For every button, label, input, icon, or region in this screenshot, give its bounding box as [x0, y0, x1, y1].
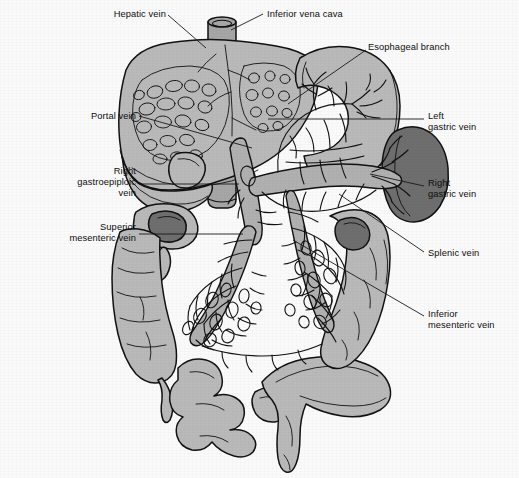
- sigmoid-colon-organ: [262, 357, 391, 472]
- label-inferior-mesenteric-vein: Inferiormesenteric vein: [428, 309, 518, 331]
- label-line: gastric vein: [428, 189, 514, 200]
- label-line: Right: [40, 166, 136, 177]
- label-inferior-vena-cava: Inferior vena cava: [267, 9, 387, 20]
- label-splenic-vein: Splenic vein: [428, 248, 514, 259]
- label-hepatic-vein: Hepatic vein: [84, 9, 166, 20]
- label-line: Esophageal branch: [368, 42, 488, 53]
- label-line: mesenteric vein: [26, 233, 136, 244]
- label-right-gastric-vein: Rightgastric vein: [428, 178, 514, 200]
- label-line: Left: [428, 111, 514, 122]
- label-line: Inferior vena cava: [267, 9, 387, 20]
- anatomical-figure: .o { stroke:#111; stroke-width:1.5; stro…: [0, 0, 519, 478]
- label-line: Splenic vein: [428, 248, 514, 259]
- descending-colon-organ: [321, 210, 390, 369]
- label-esophageal-branch: Esophageal branch: [368, 42, 488, 53]
- label-line: Hepatic vein: [84, 9, 166, 20]
- label-line: mesenteric vein: [428, 320, 518, 331]
- label-line: Portal vein: [58, 111, 136, 122]
- label-superior-mesenteric-vein: Superiormesenteric vein: [26, 222, 136, 244]
- label-line: gastroepiploic: [40, 177, 136, 188]
- liver-organ: [119, 39, 319, 190]
- label-left-gastric-vein: Leftgastric vein: [428, 111, 514, 133]
- label-portal-vein: Portal vein: [58, 111, 136, 122]
- gallbladder-organ: [169, 153, 206, 189]
- label-line: vein: [40, 188, 136, 199]
- label-line: Right: [428, 178, 514, 189]
- label-line: Inferior: [428, 309, 518, 320]
- label-line: Superior: [26, 222, 136, 233]
- label-line: gastric vein: [428, 122, 514, 133]
- label-right-gastroepiploic-vein: Rightgastroepiploicvein: [40, 166, 136, 200]
